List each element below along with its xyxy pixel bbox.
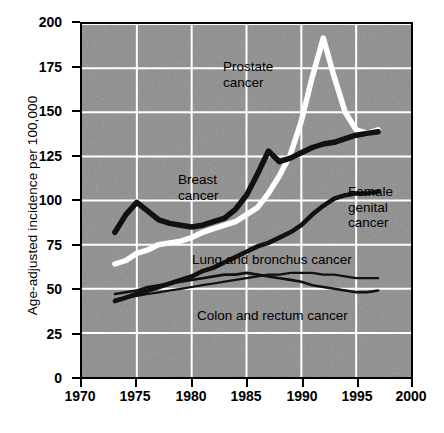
annotation-prostate-line1: Prostate [223,59,273,75]
x-tick-label: 1980 [168,389,214,403]
y-tick-label: 50 [28,282,62,296]
annotation-colon-line1: Colon and rectum cancer [197,308,348,323]
y-tick-mark [72,199,80,201]
y-tick-mark [72,377,80,379]
annotation-breast-line2: cancer [178,188,219,204]
x-tick-mark [80,379,82,387]
annotation-lung: Lung and bronchus cancer [192,252,352,267]
x-tick-mark [191,379,193,387]
x-tick-label: 1975 [112,389,158,403]
y-tick-mark [72,21,80,23]
y-tick-mark [72,155,80,157]
x-tick-label-group: 1970 1975 1980 1985 1990 1995 2000 [0,389,444,413]
figure: Age-adjusted incidence per 100,000 200 1… [0,0,444,433]
y-tick-label: 75 [28,238,62,252]
x-tick-mark [357,379,359,387]
annotation-female-genital-line2: genital [348,200,393,216]
annotation-prostate-line2: cancer [223,75,273,91]
y-tick-mark [72,66,80,68]
annotation-female-genital-line1: Female [348,184,393,200]
x-tick-label: 1995 [334,389,380,403]
annotation-colon: Colon and rectum cancer [197,308,348,323]
x-tick-label: 1990 [279,389,325,403]
annotation-female-genital-line3: cancer [348,215,393,231]
y-tick-label: 150 [28,104,62,118]
x-tick-label: 2000 [388,389,434,403]
y-tick-mark [72,244,80,246]
plot-area: Prostate cancer Breast cancer Female gen… [80,22,413,379]
x-tick-mark [411,379,413,387]
y-tick-mark [72,333,80,335]
y-tick-mark [72,110,80,112]
y-tick-mark [72,288,80,290]
x-tick-mark [135,379,137,387]
y-tick-label: 125 [28,149,62,163]
y-tick-label-group: 200 175 150 125 100 75 50 25 0 [26,0,62,433]
x-tick-mark [246,379,248,387]
y-tick-label: 0 [28,371,62,385]
annotation-breast-line1: Breast [178,172,219,188]
y-tick-label: 100 [28,193,62,207]
annotation-lung-line1: Lung and bronchus cancer [192,252,352,267]
x-tick-label: 1985 [223,389,269,403]
y-tick-label: 200 [28,15,62,29]
y-tick-label: 25 [28,327,62,341]
x-tick-label: 1970 [57,389,103,403]
annotation-prostate: Prostate cancer [223,59,273,90]
y-tick-label: 175 [28,60,62,74]
annotation-female-genital: Female genital cancer [348,184,393,231]
x-tick-mark [302,379,304,387]
annotation-breast: Breast cancer [178,172,219,203]
